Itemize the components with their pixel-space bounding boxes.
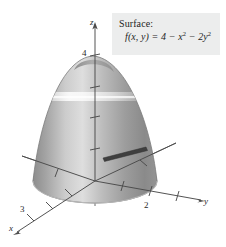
x-tick-2 — [46, 202, 53, 209]
z-axis-label: z — [90, 17, 94, 27]
y-axis-tick-label-2: 2 — [144, 200, 149, 210]
x-axis-tick-label-3: 3 — [20, 204, 25, 214]
x-axis-arrowhead — [13, 231, 21, 235]
x-axis-label: x — [9, 223, 13, 233]
surface-callout: Surface: f(x, y) = 4 − x2 − 2y2 — [112, 13, 220, 55]
formula-exponent-2: 2 — [208, 30, 211, 37]
callout-title: Surface: — [119, 17, 214, 30]
formula-fn: f(x, y) = 4 − x — [125, 31, 183, 42]
formula-mid: − 2y — [186, 31, 208, 42]
y-axis-label: y — [204, 196, 208, 206]
x-tick-3 — [27, 214, 34, 221]
callout-formula: f(x, y) = 4 − x2 − 2y2 — [119, 30, 214, 43]
z-axis-tick-label-4: 4 — [82, 48, 87, 58]
figure-canvas: Surface: f(x, y) = 4 − x2 − 2y2 z y x 4 … — [0, 0, 226, 247]
